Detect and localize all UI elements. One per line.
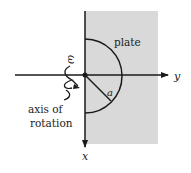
- diagram-svg: plate ω a y x axis of rotation: [0, 0, 191, 173]
- plate-label: plate: [114, 36, 141, 48]
- x-axis-label: x: [82, 150, 89, 163]
- omega-label: ω: [65, 55, 78, 64]
- diagram-canvas: plate ω a y x axis of rotation: [0, 0, 191, 173]
- axis-of-rotation-line2: rotation: [30, 117, 73, 129]
- origin-dot: [83, 73, 88, 78]
- axis-of-rotation-line1: axis of: [28, 103, 64, 115]
- radius-label: a: [107, 87, 113, 98]
- y-axis-label: y: [173, 70, 181, 83]
- rotation-curl-icon: [64, 66, 78, 100]
